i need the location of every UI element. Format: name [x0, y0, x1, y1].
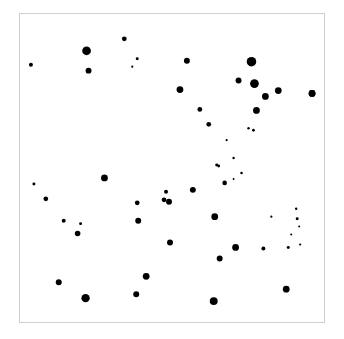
scatter-point — [86, 68, 92, 74]
scatter-point — [131, 66, 133, 68]
scatter-point — [75, 231, 81, 237]
plot-area-frame — [19, 13, 325, 323]
scatter-point — [233, 178, 235, 180]
scatter-point — [226, 139, 228, 141]
scatter-point — [190, 187, 196, 193]
scatter-point — [261, 246, 265, 250]
scatter-point — [296, 217, 299, 220]
scatter-point — [135, 200, 140, 205]
scatter-point — [143, 273, 150, 280]
scatter-point — [309, 90, 316, 97]
scatter-point — [298, 226, 300, 228]
scatter-point — [247, 127, 249, 129]
scatter-point — [210, 297, 218, 305]
scatter-point — [283, 286, 290, 293]
scatter-point — [164, 190, 168, 194]
scatter-point — [122, 36, 127, 41]
scatter-point — [56, 279, 62, 285]
scatter-point — [232, 157, 234, 159]
scatter-point — [101, 175, 108, 182]
scatter-point — [82, 46, 91, 55]
scatter-point — [135, 218, 141, 224]
scatter-point — [299, 243, 301, 245]
scatter-point — [240, 172, 243, 175]
scatter-point — [32, 182, 35, 185]
scatter-point — [217, 255, 223, 261]
scatter-point — [222, 181, 227, 186]
scatter-point — [295, 208, 297, 210]
scatter-point — [290, 234, 292, 236]
scatter-point — [167, 240, 173, 246]
scatter-point — [206, 122, 211, 127]
scatter-points-layer — [20, 14, 324, 322]
scatter-point — [275, 87, 282, 94]
scatter-point — [197, 107, 202, 112]
scatter-point — [136, 57, 139, 60]
scatter-point — [247, 57, 257, 67]
scatter-point — [162, 197, 167, 202]
scatter-point — [166, 199, 172, 205]
scatter-point — [43, 196, 48, 201]
scatter-point — [79, 222, 82, 225]
scatter-point — [236, 78, 242, 84]
scatter-point — [184, 58, 190, 64]
scatter-plot-figure — [0, 0, 344, 339]
scatter-point — [262, 93, 269, 100]
scatter-point — [29, 63, 33, 67]
scatter-point — [232, 244, 239, 251]
scatter-point — [81, 294, 89, 302]
scatter-point — [217, 165, 220, 168]
scatter-point — [253, 107, 260, 114]
scatter-point — [250, 79, 259, 88]
scatter-point — [211, 213, 218, 220]
scatter-point — [270, 216, 272, 218]
scatter-point — [62, 219, 66, 223]
scatter-point — [177, 86, 184, 93]
scatter-point — [252, 129, 255, 132]
scatter-point — [287, 246, 290, 249]
scatter-point — [133, 291, 139, 297]
